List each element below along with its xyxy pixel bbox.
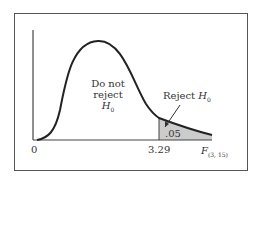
do-not-reject-label: Do not reject H0 <box>88 78 128 115</box>
tick-critical: 3.29 <box>148 144 170 155</box>
reject-label: Reject H0 <box>163 90 211 105</box>
tick-zero: 0 <box>31 144 37 155</box>
x-axis-label: F(3, 15) <box>201 145 228 160</box>
alpha-label: .05 <box>165 128 181 139</box>
